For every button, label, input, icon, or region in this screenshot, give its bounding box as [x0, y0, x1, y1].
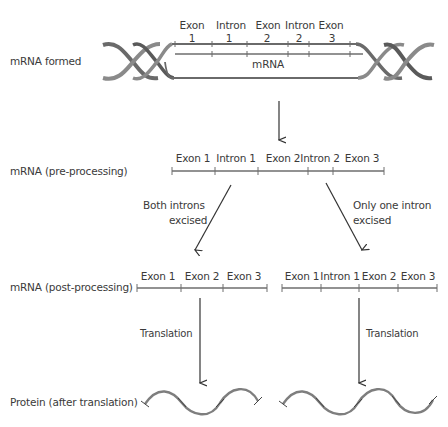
pre-segment-label: Exon 1: [176, 152, 210, 164]
dna-helix-right: [356, 44, 434, 79]
dna-segment-label: Exon: [256, 19, 281, 31]
row-label-pre-processing: mRNA (pre-processing): [10, 165, 127, 177]
protein-left: [141, 389, 262, 414]
row-label-post-processing: mRNA (post-processing): [10, 281, 133, 293]
post-right-segment-label: Exon 1: [285, 270, 319, 282]
pre-segment-label: Intron 1: [216, 152, 255, 164]
dna-segment-number: 3: [329, 32, 335, 44]
post-left-segment-label: Exon 1: [141, 270, 175, 282]
post-right-segment-label: Exon 3: [401, 270, 435, 282]
post-left-segment-label: Exon 3: [227, 270, 261, 282]
dna-segment-number: 2: [296, 32, 302, 44]
pre-segment-label: Exon 2: [266, 152, 300, 164]
translation-label-right: Translation: [366, 328, 418, 339]
pre-segment-label: Exon 3: [345, 152, 379, 164]
pre-segment-label: Intron 2: [300, 152, 339, 164]
mrna-label: mRNA: [252, 58, 284, 70]
post-processing-line-right: [282, 284, 437, 292]
dna-segment-label: Exon: [180, 19, 205, 31]
post-right-segment-label: Exon 2: [362, 270, 396, 282]
dna-segment-label: Intron: [216, 19, 246, 31]
branch-left-line1: Both introns: [143, 199, 205, 211]
row-label-protein: Protein (after translation): [10, 396, 138, 408]
branch-right-line2: excised: [353, 214, 391, 226]
pre-processing-line: [172, 167, 384, 175]
dna-segment-label: Exon: [319, 19, 344, 31]
protein-right: [279, 389, 437, 414]
post-left-segment-label: Exon 2: [185, 270, 219, 282]
row-label-mrna-formed: mRNA formed: [10, 55, 81, 67]
dna-segment-label: Intron: [285, 19, 315, 31]
translation-label-left: Translation: [140, 328, 192, 339]
dna-helix-left: [103, 44, 174, 79]
branch-right-line1: Only one intron: [353, 199, 431, 211]
dna-segment-number: 2: [264, 32, 270, 44]
dna-segment-number: 1: [189, 32, 195, 44]
dna-segment-number: 1: [226, 32, 232, 44]
post-processing-line-left: [137, 284, 267, 292]
branch-left-line2: excised: [169, 214, 207, 226]
post-right-segment-label: Intron 1: [320, 270, 359, 282]
